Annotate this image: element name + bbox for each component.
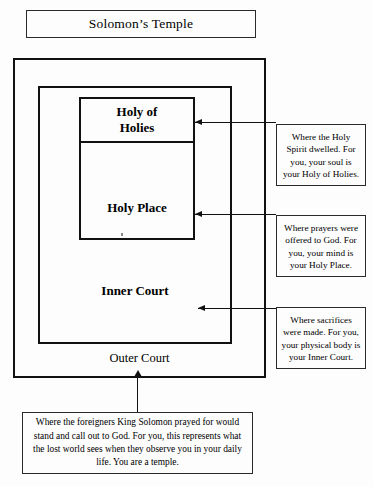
arrowhead-inner-court xyxy=(198,305,205,311)
arrowhead-holy-of-holies xyxy=(195,119,202,125)
scan-artifact-speck xyxy=(121,233,123,236)
holy-place-label: Holy Place xyxy=(79,200,195,216)
connector-line-holy-place xyxy=(195,214,276,215)
connector-line-inner-court xyxy=(198,308,276,309)
inner-court-label: Inner Court xyxy=(38,283,232,299)
note-inner-court-text: Where sacrifices were made. For you, you… xyxy=(281,314,361,363)
diagram-canvas: Solomon’s Temple Holy of Holies Holy Pla… xyxy=(0,0,373,487)
note-holy-place: Where prayers were offered to God. For y… xyxy=(276,215,366,277)
diagram-title-box: Solomon’s Temple xyxy=(26,10,256,38)
note-holy-place-text: Where prayers were offered to God. For y… xyxy=(281,222,361,271)
arrowhead-outer-court xyxy=(134,370,142,377)
connector-line-outer-court xyxy=(137,372,138,412)
diagram-title: Solomon’s Temple xyxy=(89,16,193,32)
holy-of-holies-label: Holy of Holies xyxy=(81,104,193,137)
outer-court-label: Outer Court xyxy=(13,351,266,367)
holy-of-holies-label-line2: Holies xyxy=(120,120,155,135)
note-holy-of-holies-text: Where the Holy Spirit dwelled. For you, … xyxy=(281,131,361,180)
holy-of-holies-region: Holy of Holies xyxy=(79,97,195,143)
note-outer-court: Where the foreigners King Solomon prayed… xyxy=(22,412,253,474)
note-inner-court: Where sacrifices were made. For you, you… xyxy=(276,307,366,369)
holy-of-holies-label-line1: Holy of xyxy=(117,104,158,119)
connector-line-holy-of-holies xyxy=(195,122,276,123)
arrowhead-holy-place xyxy=(195,211,202,217)
note-holy-of-holies: Where the Holy Spirit dwelled. For you, … xyxy=(276,124,366,186)
note-outer-court-text: Where the foreigners King Solomon prayed… xyxy=(29,416,246,469)
